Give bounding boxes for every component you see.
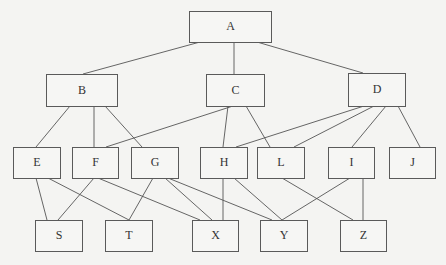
edge-d-h [236, 106, 364, 147]
node-label: I [350, 155, 354, 169]
edge-c-f [106, 106, 233, 147]
node-f: F [73, 148, 119, 179]
node-y: Y [261, 221, 308, 252]
node-i: I [329, 148, 375, 179]
node-j: J [390, 148, 436, 179]
edge-h-y [234, 178, 282, 220]
node-label: B [78, 83, 86, 97]
edge-c-l [246, 106, 270, 147]
edges-layer [36, 42, 420, 220]
edge-a-d [257, 42, 363, 73]
node-label: C [231, 83, 239, 97]
node-g: G [132, 148, 179, 179]
edge-e-s [36, 178, 47, 220]
edge-c-h [223, 106, 228, 147]
node-t: T [106, 221, 153, 252]
node-label: Y [280, 228, 289, 242]
node-label: S [56, 228, 63, 242]
node-label: G [151, 155, 160, 169]
edge-g-x [165, 178, 212, 220]
node-l: L [258, 148, 305, 179]
edge-a-b [83, 42, 200, 74]
edge-d-j [398, 106, 420, 147]
node-z: Z [341, 221, 387, 252]
edge-b-e [36, 106, 70, 147]
node-label: L [277, 155, 284, 169]
edge-d-i [352, 106, 386, 147]
node-label: D [373, 82, 382, 96]
node-d: D [349, 74, 406, 107]
node-h: H [201, 148, 248, 179]
node-c: C [207, 75, 265, 107]
node-label: J [410, 155, 415, 169]
node-s: S [36, 221, 83, 252]
node-label: E [33, 155, 40, 169]
edge-d-l [294, 106, 374, 147]
node-e: E [14, 148, 61, 179]
node-label: H [220, 155, 229, 169]
node-x: X [193, 221, 239, 252]
node-label: Z [360, 228, 367, 242]
node-label: X [211, 228, 220, 242]
edge-b-g [105, 106, 142, 147]
node-label: F [92, 155, 99, 169]
node-label: A [226, 19, 235, 33]
hierarchy-diagram: ABCDEFGHLIJSTXYZ [0, 0, 446, 265]
node-a: A [190, 12, 272, 43]
node-b: B [47, 75, 118, 107]
node-label: T [125, 228, 133, 242]
